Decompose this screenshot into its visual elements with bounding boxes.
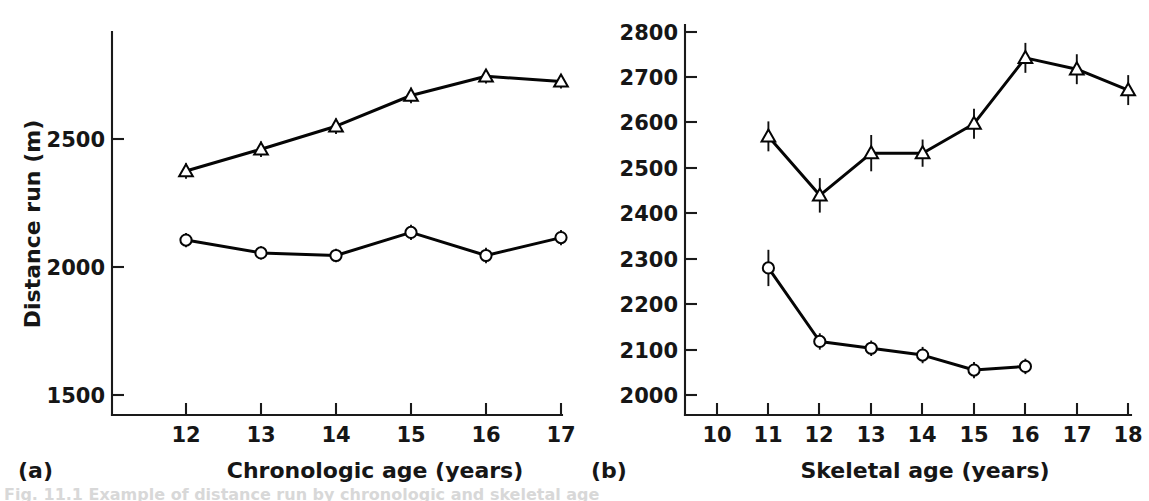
figure-caption: Fig. 11.1 Example of distance run by chr…: [4, 487, 1144, 501]
panel-a-svg: 2500 2000 1500 12 13 14 15 16 17 Distanc…: [0, 0, 575, 501]
panel-a-ytick-1500: 1500: [47, 384, 105, 408]
panel-b-ytick-2700: 2700: [620, 66, 678, 90]
panel-a-ytick-2000: 2000: [47, 256, 105, 280]
chart-panel-b: 2800 2700 2600 2500 2400 2300 2200 2100 …: [575, 0, 1149, 501]
panel-b-ytick-2800: 2800: [620, 21, 678, 45]
data-point-triangle: [1019, 51, 1033, 63]
series-line-triangle-series: [768, 58, 1128, 195]
panel-b-x-ticks: [717, 403, 1128, 415]
data-point-triangle: [762, 130, 776, 142]
panel-b-x-axis-title: Skeletal age (years): [800, 458, 1049, 483]
panel-b-plot-area: [762, 43, 1135, 378]
series-line-triangle-series: [186, 76, 561, 171]
panel-a-x-ticks: [186, 403, 561, 415]
panel-b-ytick-2300: 2300: [620, 248, 678, 272]
chart-panel-a: 2500 2000 1500 12 13 14 15 16 17 Distanc…: [0, 0, 575, 501]
series-line-circle-series: [186, 232, 561, 255]
panel-a-plot-area: [179, 69, 568, 263]
panel-a-label: (a): [18, 458, 53, 483]
panel-b-ytick-2400: 2400: [620, 202, 678, 226]
panel-b-xtick-14: 14: [907, 423, 936, 447]
data-point-circle: [555, 232, 566, 243]
data-point-circle: [763, 262, 774, 273]
figure-container: 2500 2000 1500 12 13 14 15 16 17 Distanc…: [0, 0, 1149, 501]
data-point-circle: [405, 227, 416, 238]
data-point-circle: [917, 349, 928, 360]
panel-a-xtick-13: 13: [246, 423, 275, 447]
panel-a-xtick-16: 16: [471, 423, 500, 447]
panel-b-xtick-16: 16: [1010, 423, 1039, 447]
panel-a-x-axis-title: Chronologic age (years): [227, 458, 524, 483]
panel-b-y-ticks: [685, 32, 697, 395]
panel-b-ytick-2000: 2000: [620, 384, 678, 408]
data-point-circle: [255, 247, 266, 258]
panel-a-ytick-2500: 2500: [47, 128, 105, 152]
panel-b-label: (b): [591, 458, 627, 483]
panel-b-svg: 2800 2700 2600 2500 2400 2300 2200 2100 …: [575, 0, 1149, 501]
panel-a-y-axis-title: Distance run (m): [20, 120, 45, 328]
panel-b-xtick-17: 17: [1062, 423, 1091, 447]
panel-b-xtick-13: 13: [856, 423, 885, 447]
panel-a-y-ticks: [112, 139, 124, 395]
panel-b-xtick-12: 12: [804, 423, 833, 447]
series-line-circle-series: [768, 268, 1025, 370]
panel-b-ytick-2500: 2500: [620, 157, 678, 181]
panel-b-xtick-18: 18: [1113, 423, 1142, 447]
panel-a-xtick-17: 17: [546, 423, 575, 447]
panel-a-xtick-15: 15: [396, 423, 425, 447]
data-point-circle: [330, 250, 341, 261]
data-point-circle: [968, 364, 979, 375]
panel-b-ytick-2100: 2100: [620, 339, 678, 363]
panel-a-xtick-12: 12: [171, 423, 200, 447]
data-point-circle: [814, 336, 825, 347]
panel-b-xtick-15: 15: [959, 423, 988, 447]
panel-a-xtick-14: 14: [321, 423, 350, 447]
data-point-circle: [866, 343, 877, 354]
panel-b-xtick-10: 10: [702, 423, 731, 447]
data-point-circle: [1020, 361, 1031, 372]
panel-b-ytick-2200: 2200: [620, 293, 678, 317]
data-point-circle: [480, 250, 491, 261]
data-point-circle: [180, 235, 191, 246]
panel-b-xtick-11: 11: [753, 423, 782, 447]
panel-b-ytick-2600: 2600: [620, 111, 678, 135]
